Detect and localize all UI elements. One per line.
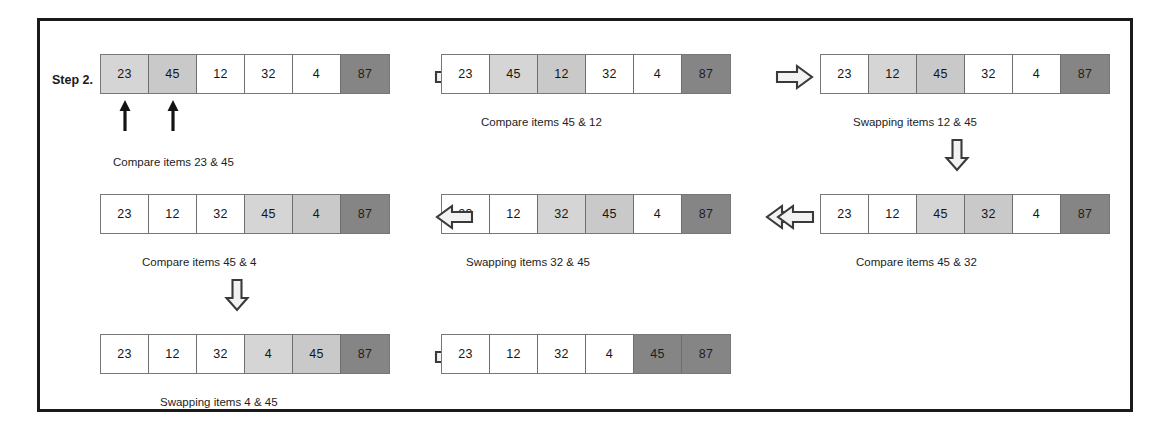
array-cell[interactable]: 12 <box>869 195 917 233</box>
array-cell[interactable]: 12 <box>538 55 586 93</box>
array-cell[interactable]: 87 <box>1061 195 1109 233</box>
array-cell[interactable]: 4 <box>293 55 341 93</box>
array-cell[interactable]: 32 <box>197 195 245 233</box>
panel-3: 23 12 45 32 4 87 Swapping items 12 & 45 <box>820 54 1110 94</box>
array-8: 23 12 32 4 45 87 <box>441 334 731 374</box>
arrow-right-icon <box>775 63 815 91</box>
compare-pointer-icon <box>118 98 132 132</box>
array-cell[interactable]: 23 <box>821 195 869 233</box>
array-cell[interactable]: 4 <box>586 335 634 373</box>
array-cell[interactable]: 32 <box>965 195 1013 233</box>
array-cell[interactable]: 87 <box>682 335 730 373</box>
panel-caption: Swapping items 32 & 45 <box>466 256 590 268</box>
array-4: 23 12 45 32 4 87 <box>820 194 1110 234</box>
array-cell[interactable]: 23 <box>821 55 869 93</box>
array-cell[interactable]: 4 <box>245 335 293 373</box>
array-cell[interactable]: 12 <box>869 55 917 93</box>
array-cell[interactable]: 12 <box>197 55 245 93</box>
arrow-left-icon <box>434 203 474 231</box>
array-cell[interactable]: 4 <box>634 55 682 93</box>
array-cell[interactable]: 45 <box>634 335 682 373</box>
array-cell[interactable]: 87 <box>341 55 389 93</box>
diagram-frame: Step 2. 23 45 12 32 4 87 Compare items 2… <box>37 18 1133 412</box>
array-cell[interactable]: 32 <box>965 55 1013 93</box>
array-cell[interactable]: 87 <box>341 195 389 233</box>
array-2: 23 45 12 32 4 87 <box>441 54 731 94</box>
array-cell[interactable]: 45 <box>149 55 197 93</box>
array-7: 23 12 32 4 45 87 <box>100 334 390 374</box>
array-cell[interactable]: 4 <box>1013 195 1061 233</box>
array-cell[interactable]: 87 <box>341 335 389 373</box>
array-cell[interactable]: 45 <box>917 55 965 93</box>
step-label: Step 2. <box>52 73 93 87</box>
array-cell[interactable]: 45 <box>245 195 293 233</box>
array-cell[interactable]: 87 <box>682 55 730 93</box>
array-cell[interactable]: 32 <box>586 55 634 93</box>
array-cell[interactable]: 4 <box>634 195 682 233</box>
array-cell[interactable]: 12 <box>149 195 197 233</box>
panel-caption: Compare items 45 & 12 <box>481 116 602 128</box>
array-cell[interactable]: 32 <box>245 55 293 93</box>
panel-caption: Swapping items 12 & 45 <box>853 116 977 128</box>
panel-1: 23 45 12 32 4 87 Compare items 23 & 45 <box>100 54 390 94</box>
array-cell[interactable]: 23 <box>101 335 149 373</box>
array-cell[interactable]: 45 <box>293 335 341 373</box>
panel-8: 23 12 32 4 45 87 <box>441 334 731 374</box>
array-cell[interactable]: 45 <box>490 55 538 93</box>
array-6: 23 12 32 45 4 87 <box>100 194 390 234</box>
array-cell[interactable]: 23 <box>101 195 149 233</box>
panel-4: 23 12 45 32 4 87 Compare items 45 & 32 <box>820 194 1110 234</box>
array-1: 23 45 12 32 4 87 <box>100 54 390 94</box>
array-cell[interactable]: 12 <box>149 335 197 373</box>
array-cell[interactable]: 32 <box>538 195 586 233</box>
array-cell[interactable]: 45 <box>586 195 634 233</box>
array-3: 23 12 45 32 4 87 <box>820 54 1110 94</box>
array-5: 23 12 32 45 4 87 <box>441 194 731 234</box>
array-cell[interactable]: 32 <box>197 335 245 373</box>
arrow-down-icon <box>944 138 970 172</box>
array-cell[interactable]: 23 <box>442 335 490 373</box>
panel-caption: Swapping items 4 & 45 <box>160 396 278 408</box>
arrow-down-icon <box>224 278 250 312</box>
array-cell[interactable]: 87 <box>1061 55 1109 93</box>
array-cell[interactable]: 4 <box>293 195 341 233</box>
array-cell[interactable]: 45 <box>917 195 965 233</box>
array-cell[interactable]: 32 <box>538 335 586 373</box>
panel-7: 23 12 32 4 45 87 Swapping items 4 & 45 <box>100 334 390 374</box>
array-cell[interactable]: 12 <box>490 335 538 373</box>
panel-2: 23 45 12 32 4 87 Compare items 45 & 12 <box>441 54 731 94</box>
panel-caption: Compare items 45 & 4 <box>142 256 256 268</box>
panel-5: 23 12 32 45 4 87 Swapping items 32 & 45 <box>441 194 731 234</box>
panel-caption: Compare items 45 & 32 <box>856 256 977 268</box>
array-cell[interactable]: 12 <box>490 195 538 233</box>
array-cell[interactable]: 23 <box>442 55 490 93</box>
array-cell[interactable]: 4 <box>1013 55 1061 93</box>
panel-caption: Compare items 23 & 45 <box>113 156 234 168</box>
array-cell[interactable]: 87 <box>682 195 730 233</box>
array-cell[interactable]: 23 <box>101 55 149 93</box>
arrow-left-icon <box>775 203 815 231</box>
compare-pointer-icon <box>166 98 180 132</box>
panel-6: 23 12 32 45 4 87 Compare items 45 & 4 <box>100 194 390 234</box>
